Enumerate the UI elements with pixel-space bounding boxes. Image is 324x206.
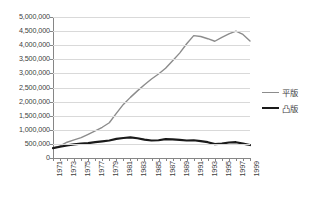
y-axis-tick-label: 0 [2,154,50,161]
x-axis-tick-label: 1975 [84,161,91,177]
plot-area [53,17,250,158]
y-axis-tick [50,130,53,131]
gridline [53,45,250,46]
x-axis-tick-label: 1995 [225,161,232,177]
x-axis-tick-label: 1985 [155,161,162,177]
x-axis-tick-label: 1981 [126,161,133,177]
series-line-2 [53,137,250,148]
y-axis-tick-label: 1,000,000 [2,126,50,133]
legend-item-2[interactable]: 凸版 [262,100,324,116]
gridline [53,73,250,74]
gridline [53,116,250,117]
y-axis-tick-label: 2,500,000 [2,84,50,91]
y-axis-tick [50,144,53,145]
x-axis-tick-label: 1991 [197,161,204,177]
x-axis-tick-label: 1977 [98,161,105,177]
y-axis-tick-label: 500,000 [2,140,50,147]
line-chart: 5,000,0004,500,0004,000,0003,500,0003,00… [0,0,324,206]
y-axis-tick-label: 1,500,000 [2,112,50,119]
x-axis-tick-label: 1989 [183,161,190,177]
x-axis-tick-label: 1993 [211,161,218,177]
gridline [53,88,250,89]
y-axis-tick [50,59,53,60]
legend-item-1[interactable]: 平版 [262,84,324,100]
chart-legend: 平版凸版 [262,84,324,116]
gridline [53,130,250,131]
gridline [53,102,250,103]
y-axis-tick [50,73,53,74]
y-axis-labels: 5,000,0004,500,0004,000,0003,500,0003,00… [0,0,50,206]
y-axis-tick [50,102,53,103]
x-axis-tick-label: 1971 [56,161,63,177]
x-axis-labels: 1971197319751977197919811983198519871989… [53,161,250,206]
legend-label: 平版 [282,86,298,98]
x-axis-tick-label: 1997 [239,161,246,177]
y-axis-tick [50,88,53,89]
x-axis-tick-label: 1979 [112,161,119,177]
x-axis-tick-label: 1983 [140,161,147,177]
gridline [53,144,250,145]
x-axis-tick [250,158,251,161]
y-axis-tick [50,17,53,18]
y-axis-tick-label: 4,000,000 [2,41,50,48]
y-axis-tick [50,45,53,46]
y-axis-tick-label: 4,500,000 [2,27,50,34]
gridline [53,59,250,60]
legend-label: 凸版 [282,102,298,114]
legend-swatch-icon [262,107,279,109]
y-axis-tick-label: 5,000,000 [2,13,50,20]
gridline [53,31,250,32]
y-axis-tick-label: 2,000,000 [2,98,50,105]
y-axis-tick [50,116,53,117]
gridline [53,17,250,18]
y-axis-tick [50,31,53,32]
legend-swatch-icon [262,92,279,93]
x-axis-tick-label: 1999 [253,161,260,177]
x-axis-tick-label: 1973 [70,161,77,177]
y-axis-tick-label: 3,500,000 [2,55,50,62]
x-axis-tick-label: 1987 [169,161,176,177]
y-axis-tick-label: 3,000,000 [2,69,50,76]
